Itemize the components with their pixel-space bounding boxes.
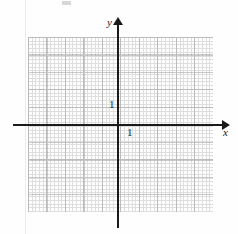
coordinate-plane-figure: y x 1 1 xyxy=(0,0,238,234)
page-edge-line xyxy=(25,0,26,234)
x-axis-line xyxy=(13,124,225,126)
y-axis-label: y xyxy=(107,17,112,28)
y-axis-arrowhead-icon xyxy=(113,17,123,25)
x-axis-tick-label-one: 1 xyxy=(127,127,133,138)
y-axis-line xyxy=(117,21,119,228)
scan-artifact xyxy=(62,1,71,5)
y-axis-tick-label-one: 1 xyxy=(109,99,115,110)
x-axis-label: x xyxy=(223,127,228,138)
